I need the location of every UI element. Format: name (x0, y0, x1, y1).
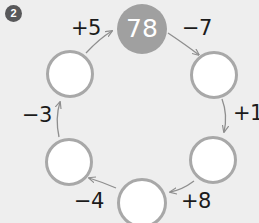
operation-label-minus4: −4 (74, 189, 104, 213)
arrow-minus4 (89, 178, 116, 188)
operation-label-plus5: +5 (71, 16, 101, 40)
node-empty-right-top[interactable] (190, 51, 238, 99)
node-empty-bottom-center[interactable] (117, 178, 167, 223)
arrow-minus3 (57, 102, 60, 137)
node-filled-78: 78 (117, 4, 167, 54)
node-empty-left-bottom[interactable] (45, 138, 93, 186)
operation-label-plus1: +1 (233, 101, 259, 125)
node-value-78: 78 (117, 4, 167, 54)
node-empty-left-top[interactable] (46, 50, 94, 98)
puzzle-page: 2 78 +5 (0, 0, 259, 223)
node-empty-right-bottom[interactable] (189, 136, 237, 184)
arrow-plus1 (222, 99, 226, 132)
operation-label-minus3: −3 (22, 103, 52, 127)
operation-label-minus7: −7 (182, 16, 212, 40)
operation-label-plus8: +8 (181, 189, 211, 213)
